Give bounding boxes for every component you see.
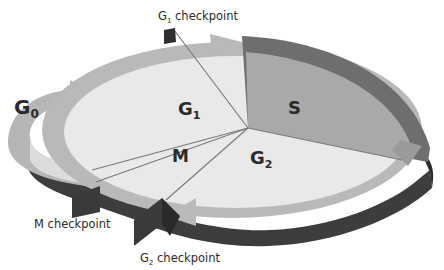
checkpoint-label-g1: G1 checkpoint <box>158 9 239 25</box>
checkpoint-label-m: M checkpoint <box>34 217 111 231</box>
phase-label-s: S <box>288 97 301 118</box>
checkpoint-label-g2: G2 checkpoint <box>140 251 221 267</box>
g1-checkpoint-flag <box>164 28 176 44</box>
phase-label-m: M <box>172 146 189 166</box>
phase-label-g0: G0 <box>14 95 39 121</box>
cell-cycle-diagram: G0 G1 S G2 M G1 checkpoint M checkpoint … <box>0 0 444 270</box>
